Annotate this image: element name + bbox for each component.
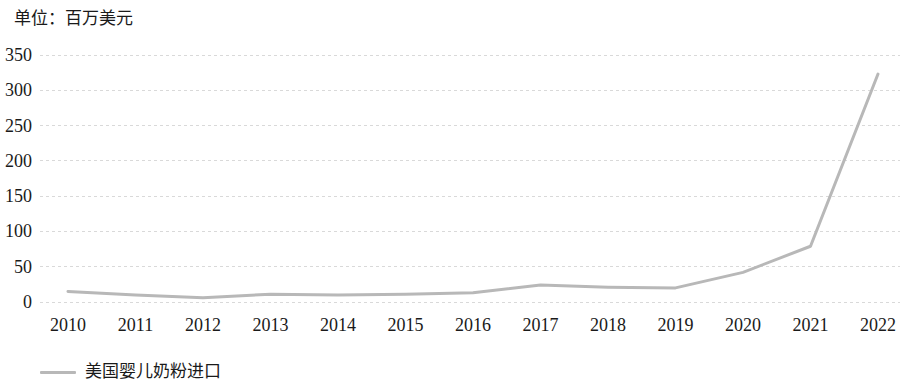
y-axis-tick-label: 0 [0, 293, 32, 311]
chart-legend: 美国婴儿奶粉进口 [40, 362, 221, 382]
series-line [68, 74, 878, 298]
x-axis-tick-label: 2019 [642, 316, 710, 334]
y-axis-tick-label: 200 [0, 152, 32, 170]
y-axis-tick-label: 100 [0, 222, 32, 240]
series-group [68, 74, 878, 298]
y-axis-tick-label: 150 [0, 187, 32, 205]
x-axis-tick-label: 2017 [507, 316, 575, 334]
chart-container: 单位：百万美元 050100150200250300350 2010201120… [0, 0, 905, 391]
x-axis-tick-label: 2012 [169, 316, 237, 334]
x-axis-tick-label: 2022 [844, 316, 905, 334]
legend-series-label: 美国婴儿奶粉进口 [85, 362, 221, 382]
x-axis-tick-label: 2016 [439, 316, 507, 334]
x-axis-tick-label: 2011 [102, 316, 170, 334]
gridlines-group [40, 55, 900, 302]
y-axis-tick-label: 350 [0, 46, 32, 64]
x-axis-tick-label: 2010 [34, 316, 102, 334]
x-axis-tick-label: 2018 [574, 316, 642, 334]
y-axis-tick-label: 50 [0, 258, 32, 276]
legend-line-swatch [40, 371, 76, 374]
x-axis-tick-label: 2015 [372, 316, 440, 334]
y-axis-tick-label: 250 [0, 117, 32, 135]
x-axis-tick-label: 2014 [304, 316, 372, 334]
x-axis-tick-label: 2013 [237, 316, 305, 334]
x-axis-tick-label: 2020 [709, 316, 777, 334]
y-axis-tick-label: 300 [0, 81, 32, 99]
x-axis-tick-label: 2021 [777, 316, 845, 334]
